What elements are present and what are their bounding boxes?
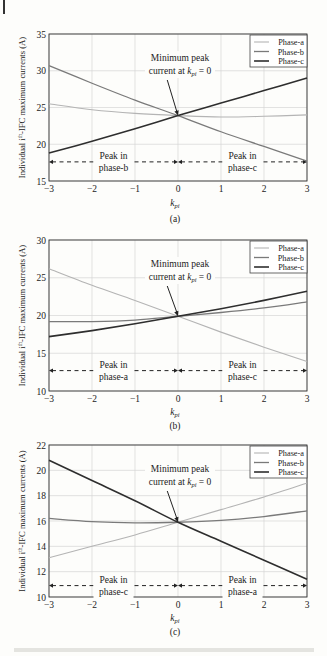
arrowhead-left-icon (49, 583, 53, 587)
region-label-line2: phase-a (99, 372, 129, 382)
figure-canvas: −3−2−101231520253035kpi(a)Individual ith… (0, 0, 327, 656)
arrowhead-left-icon (49, 368, 53, 372)
chart-panel-b: −3−2−101231015202530kpi(b)Individual ith… (17, 236, 310, 433)
y-tick-label: 25 (37, 103, 47, 113)
panel-label: (c) (170, 627, 181, 638)
y-axis-label-rest: -IFC maximum currents (A) (17, 37, 27, 134)
y-tick-label: 16 (37, 517, 47, 527)
arrowhead-left-icon (178, 583, 182, 587)
annotation-text: current at (149, 477, 188, 487)
arrowhead-right-icon (174, 368, 178, 372)
x-tick-label: −2 (87, 394, 97, 404)
x-tick-label: −1 (130, 184, 140, 194)
legend-label: Phase-c (278, 263, 304, 272)
x-tick-label: −2 (87, 600, 97, 610)
y-tick-label: 22 (37, 441, 47, 451)
region-label-line1: Peak in (228, 575, 256, 585)
annotation-arrow-line (167, 491, 177, 518)
y-axis-label-rest: -IFC maximum currents (A) (17, 245, 27, 342)
x-tick-label: 0 (176, 184, 181, 194)
y-axis-label: Individual ith-IFC maximum currents (A) (17, 37, 27, 178)
annotation-arrow-line (167, 286, 177, 312)
y-tick-label: 12 (37, 567, 47, 577)
annotation-line1: Minimum peak (151, 259, 210, 269)
arrowhead-left-icon (49, 160, 53, 164)
y-tick-label: 18 (37, 491, 47, 501)
annotation-line1: Minimum peak (151, 464, 210, 474)
region-label-line1: Peak in (228, 360, 256, 370)
x-tick-label: 3 (305, 184, 310, 194)
x-tick-label: 2 (262, 394, 267, 404)
y-tick-label: 20 (37, 140, 47, 150)
arrowhead-right-icon (303, 368, 307, 372)
x-tick-label: −2 (87, 184, 97, 194)
annotation-text: = 0 (196, 477, 211, 487)
annotation-text: current at (149, 272, 188, 282)
region-label-line1: Peak in (228, 151, 256, 161)
x-axis-label-subscript: pi (174, 411, 180, 418)
y-tick-label: 35 (37, 30, 47, 40)
region-label-line1: Peak in (99, 575, 127, 585)
arrowhead-right-icon (303, 583, 307, 587)
legend-label: Phase-a (278, 244, 304, 253)
legend-label: Phase-c (278, 57, 304, 66)
annotation-line2: current at kpi = 0 (149, 66, 212, 77)
legend-label: Phase-b (278, 254, 304, 263)
x-axis-label: kpi (170, 407, 179, 418)
legend-label: Phase-a (278, 449, 304, 458)
y-tick-label: 30 (37, 236, 47, 246)
region-label-line2: phase-c (99, 587, 128, 597)
region-label-line2: phase-a (228, 587, 258, 597)
annotation-line2: current at kpi = 0 (149, 272, 212, 283)
y-tick-label: 25 (37, 273, 47, 283)
arrowhead-right-icon (174, 583, 178, 587)
x-tick-label: 2 (262, 184, 267, 194)
x-tick-label: 3 (305, 394, 310, 404)
legend-label: Phase-b (278, 459, 304, 468)
x-tick-label: 1 (219, 394, 224, 404)
region-label-line2: phase-c (228, 163, 257, 173)
panel-label: (b) (169, 421, 180, 432)
x-tick-label: 1 (219, 184, 224, 194)
x-tick-label: 1 (219, 600, 224, 610)
arrowhead-left-icon (178, 368, 182, 372)
x-axis-label: kpi (170, 198, 179, 209)
x-tick-label: −1 (130, 600, 140, 610)
legend-label: Phase-c (278, 468, 304, 477)
legend-label: Phase-b (278, 48, 304, 57)
region-label-line2: phase-b (99, 163, 129, 173)
y-tick-label: 30 (37, 66, 47, 76)
x-tick-label: 0 (176, 600, 181, 610)
x-tick-label: 2 (262, 600, 267, 610)
x-tick-label: 3 (305, 600, 310, 610)
y-tick-label: 20 (37, 466, 47, 476)
region-label-line1: Peak in (99, 151, 127, 161)
legend-label: Phase-a (278, 38, 304, 47)
arrowhead-right-icon (174, 160, 178, 164)
y-tick-label: 20 (37, 311, 47, 321)
region-label-line2: phase-c (228, 372, 257, 382)
x-axis-label: kpi (170, 613, 179, 624)
y-tick-label: 15 (37, 349, 47, 359)
y-tick-label: 15 (37, 177, 47, 187)
chart-panel-a: −3−2−101231520253035kpi(a)Individual ith… (17, 30, 310, 226)
y-tick-label: 14 (37, 542, 47, 552)
y-axis-label: Individual ith-IFC maximum currents (A) (17, 450, 27, 591)
annotation-text: current at (149, 66, 188, 76)
figure-caption-faded (14, 648, 314, 652)
y-tick-label: 10 (37, 593, 47, 603)
panel-label: (a) (170, 214, 181, 225)
annotation-line2: current at kpi = 0 (149, 477, 212, 488)
x-axis-label-subscript: pi (174, 617, 180, 624)
annotation-text: = 0 (196, 66, 211, 76)
annotation-line1: Minimum peak (151, 53, 210, 63)
annotation-arrow-line (167, 80, 177, 112)
region-label-line1: Peak in (99, 360, 127, 370)
annotation-text: = 0 (196, 272, 211, 282)
y-axis-label: Individual ith-IFC maximum currents (A) (17, 245, 27, 386)
y-tick-label: 10 (37, 387, 47, 397)
x-axis-label-subscript: pi (174, 202, 180, 209)
y-axis-label-rest: -IFC maximum currents (A) (17, 450, 27, 547)
chart-panel-c: −3−2−1012310121416182022kpi(c)Individual… (17, 441, 310, 639)
x-tick-label: −1 (130, 394, 140, 404)
